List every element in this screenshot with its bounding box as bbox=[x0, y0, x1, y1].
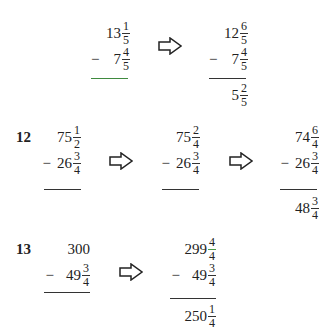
right-arrow-icon bbox=[229, 152, 253, 170]
minuend: 13 15 bbox=[106, 20, 130, 46]
answer-rule bbox=[162, 189, 199, 190]
result: 48 34 bbox=[276, 195, 319, 221]
result: 5 25 bbox=[203, 82, 248, 108]
problem-13-step-1: 300 − 49 34 bbox=[42, 236, 90, 288]
fraction: 15 bbox=[122, 21, 130, 46]
answer-rule bbox=[280, 189, 317, 190]
problem-12-step-2: 75 24 − 26 34 bbox=[157, 124, 200, 176]
problem-label: 13 bbox=[16, 241, 31, 258]
answer-rule bbox=[209, 78, 246, 79]
problem-13-step-2: 299 44 − 49 34 bbox=[168, 236, 216, 288]
right-arrow-icon bbox=[109, 152, 133, 170]
problem-1-step-2: 12 65 − 7 45 bbox=[203, 20, 248, 72]
problem-1-step-1: 13 15 − 7 45 bbox=[85, 20, 130, 72]
answer-rule bbox=[91, 78, 128, 79]
result: 250 14 bbox=[168, 303, 216, 329]
right-arrow-icon bbox=[158, 37, 182, 55]
subtrahend: − 7 45 bbox=[91, 46, 130, 72]
answer-rule bbox=[44, 292, 90, 293]
answer-rule bbox=[44, 189, 81, 190]
problem-label: 12 bbox=[16, 129, 31, 146]
answer-rule bbox=[170, 298, 216, 299]
right-arrow-icon bbox=[119, 263, 143, 281]
problem-12-step-3: 74 64 − 26 34 bbox=[276, 124, 319, 176]
problem-12-step-1: 75 12 − 26 34 bbox=[38, 124, 81, 176]
